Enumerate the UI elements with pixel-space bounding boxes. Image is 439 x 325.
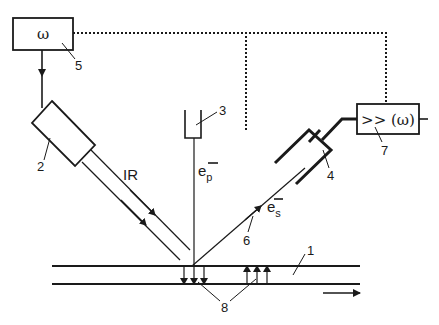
ir-label: IR — [123, 166, 138, 183]
label-4: 4 — [327, 168, 334, 183]
label-1: 1 — [307, 243, 314, 258]
label-8: 8 — [221, 300, 228, 315]
ir-beam: IR — [82, 150, 190, 260]
modulator-omega-label: ω — [37, 25, 49, 43]
label-6: 6 — [243, 233, 250, 248]
detector-signal-line — [322, 119, 357, 140]
lock-in-amplifier: >> (ω) 7 — [357, 104, 428, 158]
secondary-electron-label: es — [267, 198, 281, 219]
primary-electron-label: ep — [198, 162, 212, 183]
surface-charges: 8 — [184, 266, 267, 315]
diagram-canvas: ω 5 2 IR 3 ep 6 es — [0, 0, 439, 325]
label-2: 2 — [37, 159, 44, 174]
label-3: 3 — [219, 103, 226, 118]
sample: 1 — [52, 243, 360, 284]
ir-source: 2 — [32, 101, 95, 174]
label-7: 7 — [381, 143, 388, 158]
label-5: 5 — [75, 58, 82, 73]
lock-in-label: >> (ω) — [361, 111, 415, 129]
modulator-box: ω 5 — [13, 18, 82, 73]
reference-dotted-line — [73, 33, 386, 132]
